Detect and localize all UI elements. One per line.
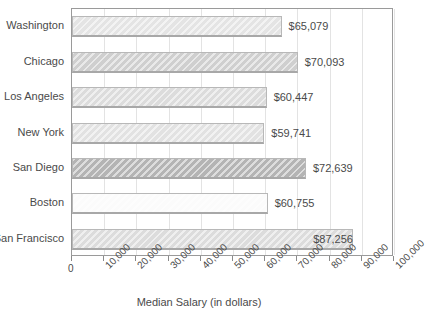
- gridline: [394, 9, 395, 255]
- bar-texture: [73, 17, 281, 35]
- bar-row: $70,093: [72, 52, 392, 73]
- tick-label: 0: [68, 263, 74, 274]
- tick-label: 100,000: [393, 237, 426, 270]
- bar[interactable]: [72, 87, 267, 108]
- bar-value-label: $59,741: [264, 123, 311, 144]
- tick-mark: [329, 256, 330, 261]
- y-axis-label: Boston: [30, 192, 64, 213]
- y-axis-label: Washington: [6, 15, 64, 36]
- bar-row: $60,447: [72, 87, 392, 108]
- bar-texture: [73, 124, 263, 142]
- y-axis-label: San Diego: [13, 157, 64, 178]
- bar-row: $72,639: [72, 158, 392, 179]
- bar-texture: [73, 88, 266, 106]
- bar[interactable]: [72, 52, 298, 73]
- bar-value-label: $60,755: [268, 193, 315, 214]
- bar[interactable]: [72, 193, 268, 214]
- bar-texture: [73, 194, 267, 212]
- bar-value-label: $60,447: [267, 87, 314, 108]
- tick-mark: [71, 256, 72, 261]
- y-axis-label: San Francisco: [0, 228, 64, 249]
- bar-value-label: $72,639: [306, 158, 353, 179]
- y-axis-category-labels: WashingtonChicagoLos AngelesNew YorkSan …: [0, 8, 68, 256]
- y-axis-label: New York: [18, 122, 64, 143]
- tick-mark: [200, 256, 201, 261]
- y-axis-label: Chicago: [24, 51, 64, 72]
- x-axis-title: Median Salary (in dollars): [0, 296, 398, 308]
- y-axis-label: Los Angeles: [4, 86, 64, 107]
- bar-series: $65,079$70,093$60,447$59,741$72,639$60,7…: [72, 9, 392, 255]
- tick-mark: [168, 256, 169, 261]
- bar-texture: [73, 53, 297, 71]
- tick-mark: [361, 256, 362, 261]
- plot-area: $65,079$70,093$60,447$59,741$72,639$60,7…: [71, 8, 393, 256]
- bar-value-label: $70,093: [298, 52, 345, 73]
- bar-texture: [73, 159, 305, 177]
- bar[interactable]: [72, 158, 306, 179]
- bar-row: $65,079: [72, 16, 392, 37]
- bar[interactable]: [72, 16, 282, 37]
- bar-row: $59,741: [72, 123, 392, 144]
- bar[interactable]: [72, 123, 264, 144]
- bar-value-label: $65,079: [282, 16, 329, 37]
- x-axis-ticks: 010,00020,00030,00040,00050,00060,00070,…: [71, 256, 393, 262]
- bar-row: $60,755: [72, 193, 392, 214]
